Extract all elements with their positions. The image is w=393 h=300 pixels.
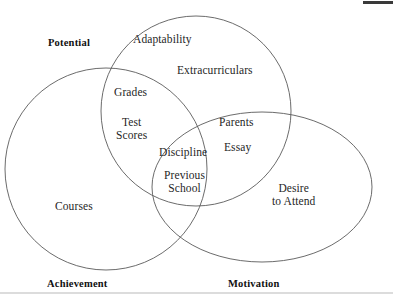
region-label-previous-school: Previous School <box>164 169 205 195</box>
region-label-test-scores: Test Scores <box>116 116 147 142</box>
region-label-discipline: Discipline <box>159 146 207 159</box>
set-title-motivation: Motivation <box>228 277 280 290</box>
region-label-parents: Parents <box>219 116 254 129</box>
venn-diagram-figure: Potential Achievement Motivation Adaptab… <box>0 0 393 300</box>
region-label-grades: Grades <box>114 86 147 99</box>
region-label-essay: Essay <box>224 141 251 154</box>
set-title-achievement: Achievement <box>47 277 108 290</box>
region-label-desire-to-attend: Desire to Attend <box>272 182 315 208</box>
region-label-adaptability: Adaptability <box>133 33 192 46</box>
region-label-courses: Courses <box>55 200 93 213</box>
bottom-rule <box>0 292 393 294</box>
set-title-potential: Potential <box>48 36 90 49</box>
region-label-extracurriculars: Extracurriculars <box>177 64 253 77</box>
